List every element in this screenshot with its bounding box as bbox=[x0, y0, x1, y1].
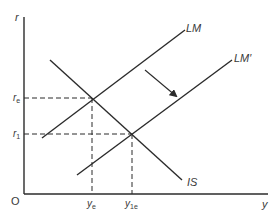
origin-label: O bbox=[11, 195, 20, 207]
y-axis-label: r bbox=[15, 11, 20, 23]
is-curve bbox=[50, 60, 182, 180]
lm-label: LM bbox=[186, 22, 202, 34]
shift-arrow-icon bbox=[145, 70, 176, 96]
re-label: re bbox=[13, 92, 20, 104]
lm-curve bbox=[42, 30, 185, 138]
ye-label: ye bbox=[86, 198, 96, 210]
x-axis-label: y bbox=[261, 198, 269, 210]
is-label: IS bbox=[187, 176, 198, 188]
lm-prime-label: LM′ bbox=[234, 52, 252, 64]
r1-label: r1 bbox=[13, 128, 20, 140]
y1e-label: y1e bbox=[124, 198, 138, 210]
is-lm-diagram: r y O LM LM′ IS re r1 ye y1e bbox=[0, 0, 280, 218]
